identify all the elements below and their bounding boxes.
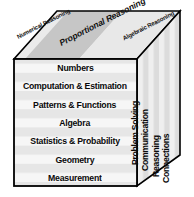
front-face — [14, 59, 137, 186]
cube-shape — [0, 0, 194, 197]
mathematics-framework-cube: Numerical Reasoning Proportional Reasoni… — [0, 0, 194, 197]
